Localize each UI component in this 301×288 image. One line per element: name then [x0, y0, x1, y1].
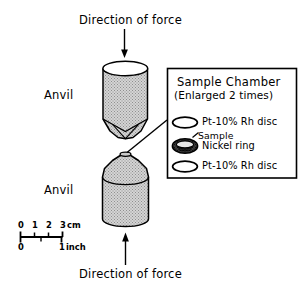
open-ellipse-disc-icon-bottom [173, 161, 198, 172]
upper-anvil [103, 61, 148, 139]
chamber-item-label-2: Nickel ring [202, 141, 255, 151]
anvil-sample-chamber-figure: Direction of force Anvil Anvil Direction… [0, 0, 301, 288]
scale-cm-tick-0: 0 [18, 221, 24, 230]
scale-bar-graphic [20, 232, 63, 243]
scale-cm-tick-2: 2 [46, 221, 52, 230]
shaded-ring-icon [172, 139, 197, 153]
scale-cm-tick-1: 1 [32, 221, 38, 230]
scale-inch-tick-0: 0 [18, 243, 24, 252]
chamber-title: Sample Chamber [177, 76, 281, 88]
lower-anvil [103, 152, 149, 226]
force-label-bottom: Direction of force [79, 268, 182, 280]
scale-cm-tick-3: 3 [60, 221, 66, 230]
diagram-artwork [0, 0, 301, 288]
force-arrow-bottom [122, 233, 129, 266]
scale-inch-tick-1: 1 [59, 243, 65, 252]
chamber-subtitle: (Enlarged 2 times) [174, 90, 273, 101]
anvil-label-upper: Anvil [44, 89, 73, 101]
scale-inch-unit: inch [66, 243, 86, 252]
chamber-item-label-3: Pt-10% Rh disc [202, 161, 277, 171]
force-label-top: Direction of force [79, 14, 182, 26]
scale-cm-unit: cm [67, 221, 81, 230]
force-arrow-top [121, 29, 128, 58]
chamber-item-label-0: Pt-10% Rh disc [202, 117, 277, 127]
open-ellipse-disc-icon-top [173, 117, 198, 128]
anvil-label-lower: Anvil [44, 184, 73, 196]
